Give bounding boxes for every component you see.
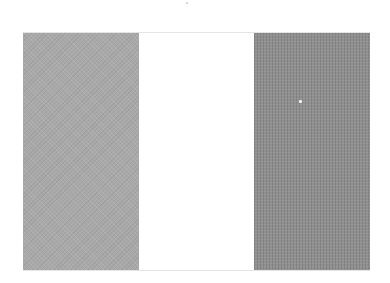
flag-stripe-middle — [139, 33, 255, 270]
flag — [23, 32, 370, 271]
top-speck — [186, 2, 188, 4]
flag-stripe-left — [23, 33, 139, 270]
cursor-speck — [299, 100, 302, 103]
flag-stripe-right — [254, 33, 370, 270]
